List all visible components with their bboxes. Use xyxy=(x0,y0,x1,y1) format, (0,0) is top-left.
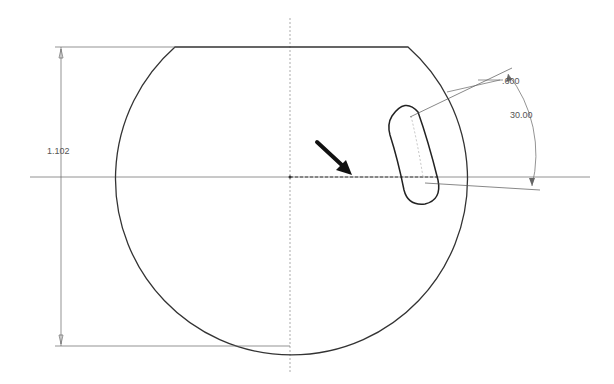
origin-point xyxy=(289,176,292,179)
slot-centerline xyxy=(411,116,423,177)
part-outline xyxy=(116,47,468,355)
angle-ref-line-lower xyxy=(425,183,540,190)
angle-ref-line-upper xyxy=(410,68,512,117)
pointer-arrow-shaft xyxy=(317,142,344,167)
slot-width-label[interactable]: .600 xyxy=(502,76,520,86)
angle-dimension-label[interactable]: 30.00 xyxy=(510,110,533,120)
arc-slot xyxy=(389,105,439,204)
angle-dimension-arc xyxy=(508,74,536,186)
cad-sketch: 1.102 30.00 .600 xyxy=(0,0,614,384)
height-dimension-label[interactable]: 1.102 xyxy=(47,146,70,156)
slot-width-leader xyxy=(447,80,500,92)
angle-arrow-bottom-icon xyxy=(529,178,535,186)
